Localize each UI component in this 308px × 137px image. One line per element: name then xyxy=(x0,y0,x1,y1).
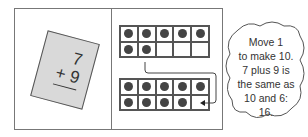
cloud-line: 16. xyxy=(228,105,304,119)
cloud-line: 10 and 6: xyxy=(228,91,304,105)
cloud-line: Move 1 xyxy=(228,35,304,49)
cloud-text: Move 1 to make 10. 7 plus 9 is the same … xyxy=(228,35,304,119)
cloud-line: 7 plus 9 is xyxy=(228,63,304,77)
cloud-line: the same as xyxy=(228,77,304,91)
cloud-line: to make 10. xyxy=(228,49,304,63)
